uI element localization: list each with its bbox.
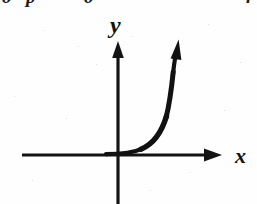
curve-asymptotic-tail xyxy=(106,148,143,154)
y-axis-arrowhead-icon xyxy=(112,41,124,58)
y-axis-label: y xyxy=(110,13,121,37)
curve-bend xyxy=(141,116,167,149)
x-axis-label: x xyxy=(235,145,246,167)
curve-rising-limb xyxy=(166,72,173,118)
graph-canvas xyxy=(0,0,257,204)
figure-container: o p o r y x xyxy=(0,0,257,204)
x-axis-arrowhead-icon xyxy=(204,149,222,162)
y-axis xyxy=(112,41,124,204)
curve-arrowhead-icon xyxy=(171,40,182,61)
